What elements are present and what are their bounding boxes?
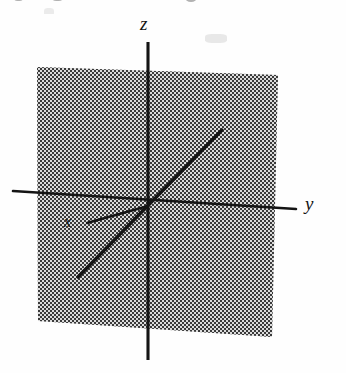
scan-artifact-mark (14, 0, 23, 1)
scan-artifact-mark (205, 34, 227, 43)
y-axis-label: y (305, 194, 313, 213)
scan-artifact-mark (52, 0, 63, 1)
figure-canvas: z y x (0, 0, 346, 373)
scan-artifact-mark (185, 0, 197, 2)
axis-diagram-svg (0, 0, 346, 373)
z-axis-label: z (140, 14, 147, 33)
x-axis-label: x (64, 214, 71, 230)
scan-artifact-mark (44, 8, 54, 14)
scan-artifact-band (0, 0, 346, 14)
shaded-yz-plane (37, 67, 278, 337)
